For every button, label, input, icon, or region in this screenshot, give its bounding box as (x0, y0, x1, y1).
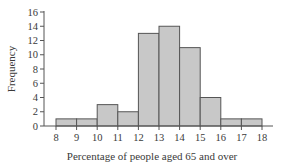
histogram-bars (56, 26, 262, 126)
x-tick-label: 9 (74, 132, 79, 143)
histogram-bar (97, 105, 118, 126)
y-axis: 0246810121416 (28, 7, 45, 132)
y-tick-label: 6 (33, 78, 38, 89)
x-axis: 89101112131415161718 (44, 126, 273, 143)
histogram-bar (118, 112, 139, 126)
y-tick-label: 0 (33, 121, 38, 132)
x-tick-label: 15 (195, 132, 206, 143)
x-tick-label: 8 (53, 132, 58, 143)
x-tick-label: 17 (236, 132, 247, 143)
y-axis-title: Frequency (5, 45, 17, 92)
y-tick-label: 2 (33, 106, 38, 117)
histogram-bar (77, 119, 98, 126)
x-tick-label: 16 (216, 132, 227, 143)
histogram-bar (180, 48, 201, 126)
x-tick-label: 13 (154, 132, 165, 143)
y-tick-label: 14 (28, 21, 39, 32)
x-tick-label: 12 (133, 132, 144, 143)
x-tick-label: 14 (174, 132, 185, 143)
y-tick-label: 10 (28, 49, 39, 60)
x-tick-label: 18 (257, 132, 268, 143)
histogram-bar (56, 119, 77, 126)
y-tick-label: 8 (33, 64, 38, 75)
histogram-bar (221, 119, 242, 126)
x-axis-title: Percentage of people aged 65 and over (67, 150, 238, 162)
y-tick-label: 16 (28, 7, 39, 18)
x-tick-label: 11 (113, 132, 123, 143)
y-tick-label: 4 (33, 92, 39, 103)
histogram-bar (200, 98, 221, 127)
x-tick-label: 10 (92, 132, 103, 143)
histogram-bar (241, 119, 262, 126)
chart-canvas: 0246810121416 89101112131415161718 Frequ… (0, 0, 286, 166)
y-tick-label: 12 (28, 35, 39, 46)
histogram-bar (159, 26, 180, 126)
histogram-bar (138, 33, 159, 126)
